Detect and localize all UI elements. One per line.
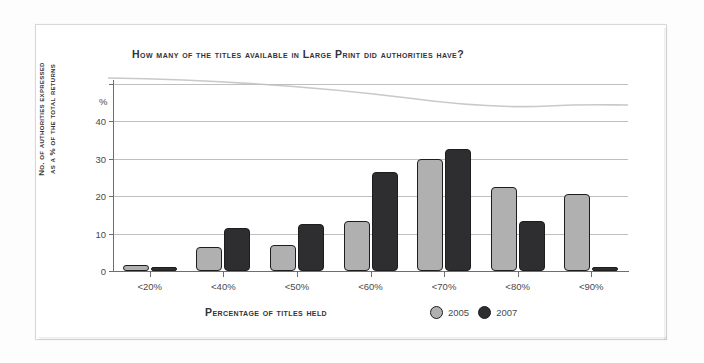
y-axis-tick [109,121,114,122]
bar-2007-90 [592,267,618,271]
y-axis-title-line2: as a % of the total returns [47,34,58,204]
x-axis-category-label: <50% [285,281,310,292]
y-axis-tick-label: 20 [95,191,106,202]
y-axis-tick-label: 10 [95,228,106,239]
x-axis-category-label: <20% [138,281,163,292]
page-edge-shadow-right [664,28,668,340]
x-axis-category-label: <40% [211,281,236,292]
legend-item-2005[interactable]: 2005 [430,306,469,319]
x-axis-category-label: <70% [432,281,457,292]
y-axis-title: No. of authorities expressed as a % of t… [36,34,58,204]
bar-2007-70 [445,149,471,271]
chart-page: How many of the titles available in Larg… [0,0,704,363]
y-axis-percent-symbol: % [99,96,107,107]
y-axis-tick [109,196,114,197]
x-axis-tick [444,271,445,277]
plot-area: 010203040 [113,84,628,271]
bar-2007-20 [151,267,177,271]
bar-2007-50 [298,224,324,271]
x-axis-category-label: <90% [579,281,604,292]
y-axis-tick-label: 40 [95,116,106,127]
chart-legend: 20052007 [430,306,517,319]
gridline [113,121,628,122]
x-axis-tick [591,271,592,277]
gridline [113,234,628,235]
bar-2005-40 [196,247,222,271]
legend-swatch-icon-2007 [478,306,491,319]
y-axis-tick-label: 0 [101,266,106,277]
bar-2005-90 [564,194,590,271]
x-axis-tick [518,271,519,277]
bar-2007-60 [372,172,398,271]
bar-2007-80 [519,221,545,271]
page-edge-shadow-bottom [39,337,667,341]
bar-2007-40 [224,228,250,271]
bar-2005-50 [270,245,296,271]
x-axis-category-label: <60% [358,281,383,292]
gridline [113,159,628,160]
y-axis-tick [109,159,114,160]
y-axis-tick [109,84,114,85]
y-axis-tick-label: 30 [95,153,106,164]
x-axis-tick [150,271,151,277]
legend-label-2005: 2005 [448,307,469,318]
legend-swatch-icon-2005 [430,306,443,319]
bar-2005-20 [123,265,149,271]
legend-item-2007[interactable]: 2007 [478,306,517,319]
bar-2005-70 [417,159,443,271]
x-axis-category-label: <80% [505,281,530,292]
gridline [113,84,628,85]
y-axis-title-line1: No. of authorities expressed [36,34,47,204]
chart-title: How many of the titles available in Larg… [132,48,464,60]
gridline [113,196,628,197]
x-axis-tick [223,271,224,277]
x-axis-tick [371,271,372,277]
legend-label-2007: 2007 [496,307,517,318]
bar-2005-80 [491,187,517,271]
x-axis-tick [297,271,298,277]
y-axis-tick [109,234,114,235]
y-axis-tick [109,271,114,272]
x-axis-title: Percentage of titles held [205,306,327,318]
bar-2005-60 [344,221,370,271]
